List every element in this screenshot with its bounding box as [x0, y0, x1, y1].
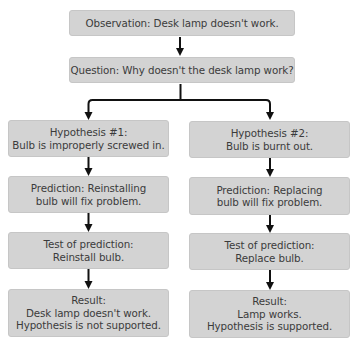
branch-connector [85, 84, 275, 120]
prediction-2-line-2: bulb will fix problem. [217, 196, 323, 209]
question-box: Question: Why doesn't the desk lamp work… [69, 57, 295, 83]
test-2-text: Replace bulb. [235, 252, 303, 265]
arrow-observation-to-question [176, 37, 184, 56]
question-text: Question: Why doesn't the desk lamp work… [70, 64, 293, 77]
prediction-1-box: Prediction: Reinstalling bulb will fix p… [8, 176, 169, 213]
result-1-outcome: Desk lamp doesn't work. [26, 307, 151, 320]
result-2-outcome: Lamp works. [237, 308, 301, 321]
prediction-2-line-1: Prediction: Replacing [216, 184, 322, 197]
test-1-text: Reinstall bulb. [53, 251, 124, 264]
result-1-title: Result: [71, 294, 106, 307]
hypothesis-2-title: Hypothesis #2: [231, 127, 309, 140]
hypothesis-2-box: Hypothesis #2: Bulb is burnt out. [189, 121, 350, 158]
prediction-1-line-2: bulb will fix problem. [36, 195, 142, 208]
hypothesis-1-title: Hypothesis #1: [50, 126, 128, 139]
hypothesis-2-text: Bulb is burnt out. [226, 140, 313, 153]
result-1-conclusion: Hypothesis is not supported. [16, 319, 161, 332]
test-2-box: Test of prediction: Replace bulb. [189, 233, 350, 270]
result-2-box: Result: Lamp works. Hypothesis is suppor… [189, 290, 350, 338]
hypothesis-1-text: Bulb is improperly screwed in. [12, 139, 164, 152]
prediction-2-box: Prediction: Replacing bulb will fix prob… [189, 177, 350, 215]
test-1-box: Test of prediction: Reinstall bulb. [8, 232, 169, 269]
test-2-title: Test of prediction: [225, 239, 315, 252]
hypothesis-1-box: Hypothesis #1: Bulb is improperly screwe… [8, 120, 169, 157]
observation-text: Observation: Desk lamp doesn't work. [85, 17, 278, 30]
result-1-box: Result: Desk lamp doesn't work. Hypothes… [8, 289, 169, 337]
prediction-1-line-1: Prediction: Reinstalling [31, 182, 146, 195]
test-1-title: Test of prediction: [44, 238, 134, 251]
result-2-title: Result: [252, 295, 287, 308]
result-2-conclusion: Hypothesis is supported. [207, 320, 332, 333]
observation-box: Observation: Desk lamp doesn't work. [69, 10, 295, 36]
